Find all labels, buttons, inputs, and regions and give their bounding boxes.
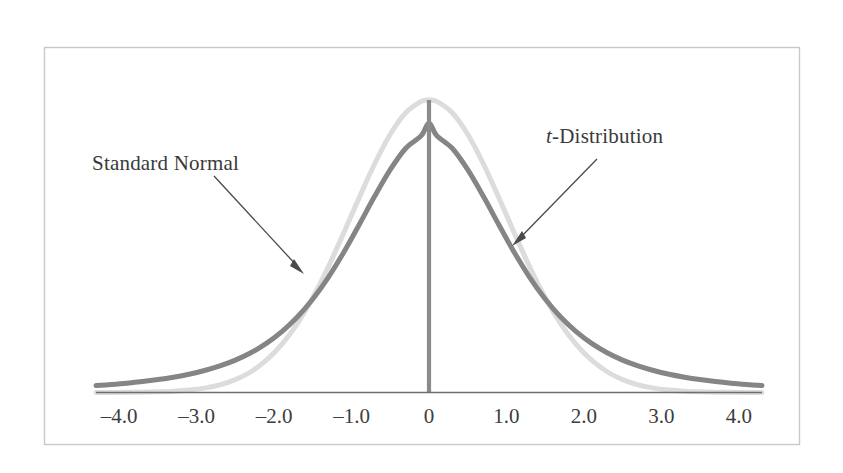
x-tick-label-0: –4.0 [100,404,138,428]
x-tick-label-2: –2.0 [255,404,293,428]
standard-normal-leader-line [214,176,298,267]
x-tick-label-7: 3.0 [648,404,674,428]
standard-normal-label: Standard Normal [92,151,239,176]
x-tick-label-6: 2.0 [571,404,597,428]
x-tick-label-5: 1.0 [493,404,519,428]
t-distribution-leader [512,159,597,246]
standard-normal-leader [214,176,304,274]
x-axis-tick-labels: –4.0–3.0–2.0–1.001.02.03.04.0 [100,404,752,428]
x-tick-label-4: 0 [424,404,435,428]
x-tick-label-8: 4.0 [726,404,752,428]
x-tick-label-3: –1.0 [332,404,370,428]
figure-container: –4.0–3.0–2.0–1.001.02.03.04.0 Standard N… [0,0,843,473]
t-distribution-label-rest: -Distribution [552,124,663,148]
distribution-chart: –4.0–3.0–2.0–1.001.02.03.04.0 [0,0,843,473]
figure-frame [45,48,800,445]
t-distribution-label: t-Distribution [546,124,663,149]
x-tick-label-1: –3.0 [177,404,215,428]
t-distribution-leader-line [519,159,597,239]
